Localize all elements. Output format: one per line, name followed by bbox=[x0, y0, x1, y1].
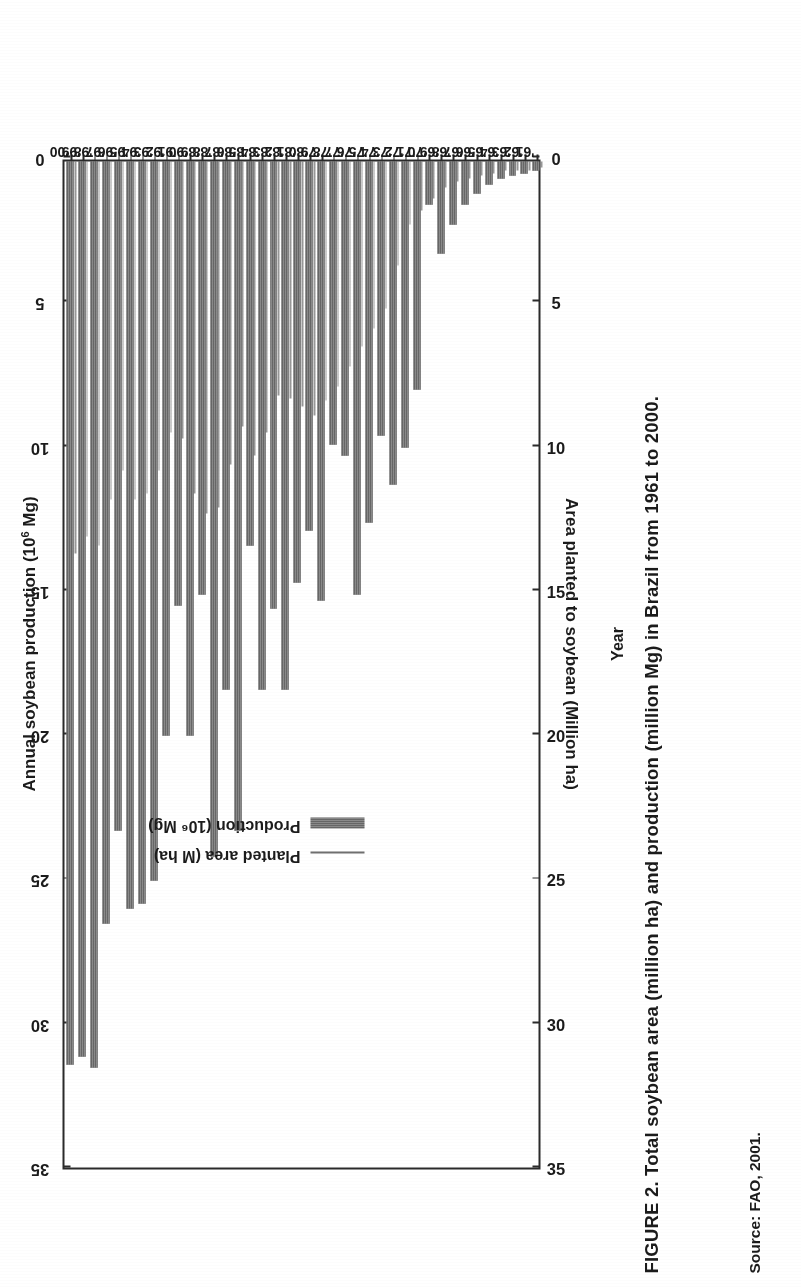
value-tick-label: 20 bbox=[30, 727, 48, 746]
bar-production bbox=[401, 161, 408, 447]
line-planted-area bbox=[98, 161, 100, 545]
bar-production bbox=[78, 161, 85, 1056]
legend-line-swatch bbox=[310, 851, 364, 853]
bar-production bbox=[485, 161, 492, 184]
line-planted-area bbox=[86, 161, 88, 536]
line-planted-area bbox=[229, 161, 231, 464]
line-planted-area bbox=[193, 161, 195, 493]
value-tick bbox=[532, 1021, 539, 1023]
bar-production bbox=[102, 161, 109, 923]
figure-source: Source: FAO, 2001. bbox=[745, 1132, 763, 1273]
bar-production bbox=[150, 161, 157, 880]
figure-caption: FIGURE 2. Total soybean area (million ha… bbox=[640, 13, 662, 1273]
value-tick-label: 0 bbox=[35, 150, 44, 169]
bottom-axis-title: Area planted to soybean (Million ha) bbox=[560, 0, 580, 1287]
bar-production bbox=[114, 161, 121, 830]
value-tick-label: 0 bbox=[551, 150, 560, 169]
bar-production bbox=[497, 161, 504, 178]
line-planted-area bbox=[444, 161, 446, 187]
line-planted-area bbox=[110, 161, 112, 499]
bar-production bbox=[138, 161, 145, 903]
top-axis-title-exponent: 6 bbox=[18, 531, 30, 537]
legend-bar-swatch bbox=[310, 817, 364, 828]
bar-production bbox=[353, 161, 360, 594]
value-tick-label: 5 bbox=[551, 294, 560, 313]
line-planted-area bbox=[397, 161, 399, 265]
bar-production bbox=[389, 161, 396, 484]
legend-item: Planted area (M ha) bbox=[124, 837, 364, 867]
line-planted-area bbox=[289, 161, 291, 398]
figure-body: Annual soybean production (106 Mg) Plant… bbox=[0, 0, 801, 1287]
line-planted-area bbox=[241, 161, 243, 426]
line-planted-area bbox=[301, 161, 303, 406]
bar-production bbox=[532, 161, 539, 170]
line-planted-area bbox=[253, 161, 255, 455]
bar-production bbox=[377, 161, 384, 435]
line-planted-area bbox=[540, 161, 542, 167]
line-planted-area bbox=[181, 161, 183, 438]
bar-production bbox=[425, 161, 432, 204]
bar-production bbox=[246, 161, 253, 545]
value-tick-label: 35 bbox=[30, 1160, 48, 1179]
value-tick bbox=[532, 300, 539, 302]
top-axis-title-tail: Mg) bbox=[20, 496, 39, 531]
value-tick-label: 30 bbox=[30, 1015, 48, 1034]
line-planted-area bbox=[373, 161, 375, 328]
plot-area: Planted area (M ha)Production (10⁶ Mg) bbox=[62, 159, 540, 1169]
line-planted-area bbox=[158, 161, 160, 470]
line-planted-area bbox=[409, 161, 411, 224]
line-planted-area bbox=[516, 161, 518, 170]
line-planted-area bbox=[205, 161, 207, 513]
line-planted-area bbox=[385, 161, 387, 308]
line-planted-area bbox=[170, 161, 172, 432]
bar-production bbox=[461, 161, 468, 204]
figure-page: Annual soybean production (106 Mg) Plant… bbox=[0, 0, 801, 1287]
line-planted-area bbox=[146, 161, 148, 493]
line-planted-area bbox=[349, 161, 351, 366]
value-tick-label: 25 bbox=[30, 871, 48, 890]
line-planted-area bbox=[468, 161, 470, 178]
bar-production bbox=[305, 161, 312, 530]
bar-production bbox=[293, 161, 300, 582]
bar-production bbox=[413, 161, 420, 389]
line-planted-area bbox=[504, 161, 506, 170]
bar-production bbox=[317, 161, 324, 600]
top-axis-title-main: Annual soybean production (10 bbox=[20, 537, 39, 791]
line-planted-area bbox=[337, 161, 339, 386]
bar-production bbox=[186, 161, 193, 735]
value-tick-label: 5 bbox=[35, 294, 44, 313]
bar-production bbox=[329, 161, 336, 444]
bar-production bbox=[270, 161, 277, 608]
top-axis-title: Annual soybean production (106 Mg) bbox=[18, 0, 40, 1287]
value-tick bbox=[532, 732, 539, 734]
bar-production bbox=[210, 161, 217, 856]
value-tick bbox=[532, 444, 539, 446]
bar-production bbox=[234, 161, 241, 830]
bar-production bbox=[222, 161, 229, 689]
value-tick bbox=[532, 1165, 539, 1167]
bar-production bbox=[90, 161, 97, 1067]
line-planted-area bbox=[277, 161, 279, 395]
chart-legend: Planted area (M ha)Production (10⁶ Mg) bbox=[124, 807, 364, 867]
year-label: '61 bbox=[515, 143, 534, 159]
bar-production bbox=[520, 161, 527, 173]
line-planted-area bbox=[432, 161, 434, 199]
value-tick bbox=[532, 588, 539, 590]
category-axis-title: Year bbox=[608, 0, 626, 1287]
bar-production bbox=[365, 161, 372, 522]
line-planted-area bbox=[134, 161, 136, 499]
value-tick bbox=[532, 877, 539, 879]
legend-label: Production (10⁶ Mg) bbox=[148, 816, 300, 834]
bar-production bbox=[126, 161, 133, 908]
bar-production bbox=[341, 161, 348, 455]
line-planted-area bbox=[456, 161, 458, 181]
line-planted-area bbox=[217, 161, 219, 507]
line-planted-area bbox=[420, 161, 422, 210]
line-planted-area bbox=[528, 161, 530, 170]
bar-production bbox=[198, 161, 205, 594]
bar-production bbox=[66, 161, 73, 1064]
legend-item: Production (10⁶ Mg) bbox=[124, 807, 364, 837]
line-planted-area bbox=[361, 161, 363, 346]
line-planted-area bbox=[265, 161, 267, 432]
line-planted-area bbox=[74, 161, 76, 553]
